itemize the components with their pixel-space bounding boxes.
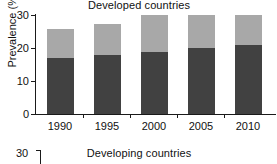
chart-developed-countries: Developed countries Prevalence (%) 30 20… <box>0 0 277 130</box>
x-tick-2 <box>130 114 131 118</box>
x-tick-4 <box>224 114 225 118</box>
bar-1990-lower-segment <box>47 58 74 114</box>
bar-2010[interactable] <box>235 15 262 114</box>
x-axis-line <box>35 114 276 115</box>
bar-2005[interactable] <box>188 15 215 114</box>
bar-2005-lower-segment <box>188 48 215 114</box>
figure: Developed countries Prevalence (%) 30 20… <box>0 0 277 164</box>
x-tick-3 <box>177 114 178 118</box>
y-tick-0 <box>31 114 36 115</box>
bar-2000-lower-segment <box>141 52 168 114</box>
bar-2005-upper-segment <box>188 15 215 48</box>
plot-area <box>36 15 274 114</box>
bar-2000[interactable] <box>141 15 168 114</box>
y-tick-label-20: 20 <box>0 42 29 54</box>
bar-1995-upper-segment <box>94 24 121 55</box>
x-tick-1 <box>83 114 84 118</box>
bar-2000-upper-segment <box>141 15 168 52</box>
chart-title-developed: Developed countries <box>14 0 264 11</box>
y-tick-label-30: 30 <box>0 9 29 21</box>
bar-1995[interactable] <box>94 24 121 114</box>
y-tick-label-0: 0 <box>0 108 29 120</box>
bar-1990[interactable] <box>47 29 74 114</box>
bar-1995-lower-segment <box>94 55 121 114</box>
bar-2010-lower-segment <box>235 45 262 114</box>
bar-1990-upper-segment <box>47 29 74 58</box>
chart-developing-countries-cropped: 30 Developing countries <box>0 130 277 164</box>
bar-2010-upper-segment <box>235 15 262 45</box>
y-tick-label-10: 10 <box>0 75 29 87</box>
chart-title-developing: Developing countries <box>14 147 264 159</box>
